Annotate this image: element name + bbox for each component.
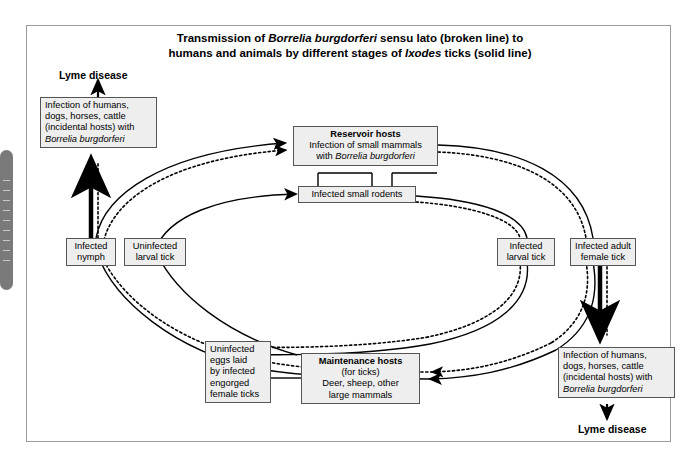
node-line: Infected — [509, 241, 542, 251]
grip-line — [3, 250, 10, 251]
node-human-infection-bottom: Infection of humans, dogs, horses, cattl… — [558, 347, 675, 398]
node-line: female ticks — [210, 389, 259, 399]
node-human-infection-top: Infection of humans, dogs, horses, cattl… — [40, 97, 157, 148]
node-line: (incidental hosts) with — [45, 122, 134, 132]
node-line: with — [316, 151, 335, 161]
title-line-1: Transmission of Borrelia burgdorferi sen… — [177, 32, 523, 44]
node-line: Infection of small mammals — [309, 140, 422, 150]
node-line: (for ticks) — [341, 367, 379, 377]
node-line: large mammals — [329, 390, 393, 400]
node-line: Infection of humans, — [563, 350, 647, 360]
label-lyme-disease-top: Lyme disease — [59, 69, 128, 81]
node-line: eggs laid — [210, 355, 247, 365]
node-line: Infection of humans, — [45, 100, 129, 110]
grip-line — [3, 260, 10, 261]
node-line: nymph — [77, 252, 105, 262]
title-text-post-2: ticks (solid line) — [441, 47, 531, 59]
title-genus-name: Ixodes — [405, 47, 441, 59]
figure-title: Transmission of Borrelia burgdorferi sen… — [60, 31, 640, 61]
node-infected-adult-female-tick: Infected adult female tick — [570, 238, 636, 266]
node-line: Uninfected — [210, 344, 254, 354]
node-line: (incidental hosts) with — [563, 372, 652, 382]
grip-line — [3, 240, 10, 241]
node-species-name: Borrelia burgdorferi — [45, 134, 125, 144]
node-line: Infected small rodents — [312, 189, 403, 199]
node-header: Maintenance hosts — [319, 356, 403, 366]
scroll-handle[interactable] — [0, 150, 13, 290]
node-maintenance-hosts: Maintenance hosts (for ticks) Deer, shee… — [301, 353, 420, 404]
node-species-name: Borrelia burgdorferi — [563, 384, 643, 394]
node-header: Reservoir hosts — [330, 129, 400, 139]
node-line: larval tick — [507, 252, 546, 262]
grip-line — [3, 210, 10, 211]
node-line: engorged — [210, 378, 249, 388]
label-lyme-disease-bottom: Lyme disease — [578, 423, 647, 435]
grip-line — [3, 190, 10, 191]
node-infected-larval-tick: Infected larval tick — [497, 238, 555, 266]
title-line-2: humans and animals by different stages o… — [169, 47, 532, 59]
node-line: Infected adult — [575, 241, 631, 251]
node-uninfected-eggs: Uninfected eggs laid by infected engorge… — [205, 341, 271, 403]
node-uninfected-larval-tick: Uninfected larval tick — [124, 238, 186, 266]
node-line: female tick — [581, 252, 625, 262]
node-line: dogs, horses, cattle — [45, 111, 126, 121]
node-line: by infected — [210, 366, 255, 376]
title-text-pre-2: humans and animals by different stages o… — [169, 47, 405, 59]
node-infected-small-rodents: Infected small rodents — [298, 186, 416, 203]
node-line: dogs, horses, cattle — [563, 361, 644, 371]
grip-line — [3, 180, 10, 181]
grip-line — [3, 220, 10, 221]
node-species-name: Borrelia burgdorferi — [335, 151, 415, 161]
node-line: Uninfected — [133, 241, 177, 251]
grip-line — [3, 200, 10, 201]
title-text-post: sensu lato (broken line) to — [377, 32, 523, 44]
grip-line — [3, 230, 10, 231]
node-line: Deer, sheep, other — [322, 378, 399, 388]
node-infected-nymph: Infected nymph — [66, 238, 116, 266]
node-reservoir-hosts: Reservoir hosts Infection of small mamma… — [293, 126, 438, 166]
node-line: larval tick — [136, 252, 175, 262]
title-text-pre: Transmission of — [177, 32, 268, 44]
node-line: Infected — [74, 241, 107, 251]
title-species-name: Borrelia burgdorferi — [268, 32, 377, 44]
